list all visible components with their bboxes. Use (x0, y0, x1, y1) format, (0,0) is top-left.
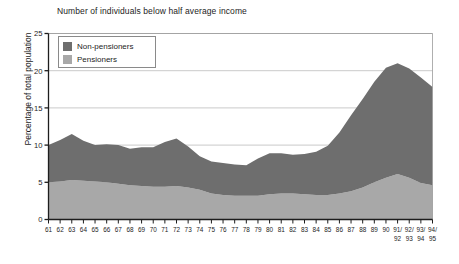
x-axis-tick: 87 (347, 226, 355, 233)
x-axis-tick: 95 (429, 235, 437, 242)
y-axis-tick: 20 (34, 67, 42, 76)
x-axis-tick: 64 (80, 226, 88, 233)
x-axis-tick: 62 (57, 226, 65, 233)
x-axis-tick: 89 (371, 226, 379, 233)
x-axis-tick: 72 (173, 226, 181, 233)
x-axis-tick: 92 (394, 235, 402, 242)
chart-figure: Number of individuals below half average… (0, 0, 459, 264)
x-axis-tick: 88 (359, 226, 367, 233)
legend-label-pensioners: Pensioners (77, 55, 117, 64)
x-axis-tick: 68 (126, 226, 134, 233)
legend-item-pensioners: Pensioners (63, 53, 151, 66)
x-axis-tick: 79 (254, 226, 262, 233)
x-axis-tick: 91/ (393, 226, 402, 233)
legend-item-non-pensioners: Non-pensioners (63, 40, 151, 53)
x-axis-tick: 71 (161, 226, 169, 233)
x-axis-tick: 77 (231, 226, 239, 233)
y-axis-tick: 0 (38, 215, 42, 224)
x-axis-tick: 66 (103, 226, 111, 233)
x-axis-tick: 85 (324, 226, 332, 233)
x-axis-tick: 73 (185, 226, 193, 233)
y-axis-tick: 25 (34, 29, 42, 38)
y-axis-tick: 10 (34, 141, 42, 150)
x-axis-tick: 75 (208, 226, 216, 233)
x-axis-tick: 67 (115, 226, 123, 233)
y-axis-tick: 15 (34, 104, 42, 113)
x-axis-tick: 65 (91, 226, 99, 233)
x-axis-tick: 81 (278, 226, 286, 233)
x-axis-tick: 92/ (405, 226, 414, 233)
y-axis-tick: 5 (38, 178, 42, 187)
x-axis-tick: 86 (336, 226, 344, 233)
x-axis-tick: 93/ (416, 226, 425, 233)
x-axis-tick: 94 (417, 235, 425, 242)
x-axis-tick: 74 (196, 226, 204, 233)
legend-swatch-pensioners (63, 55, 72, 64)
legend-label-non-pensioners: Non-pensioners (77, 42, 133, 51)
chart-legend: Non-pensioners Pensioners (58, 36, 156, 68)
x-axis-tick: 78 (243, 226, 251, 233)
x-axis-tick: 84 (313, 226, 321, 233)
x-axis-tick: 80 (266, 226, 274, 233)
x-axis-tick: 69 (138, 226, 146, 233)
x-axis-tick: 63 (68, 226, 76, 233)
legend-swatch-non-pensioners (63, 42, 72, 51)
x-axis-tick: 83 (301, 226, 309, 233)
x-axis-tick: 94/ (428, 226, 437, 233)
x-axis-tick: 90 (382, 226, 390, 233)
x-axis-tick: 70 (150, 226, 158, 233)
x-axis-tick: 93 (406, 235, 414, 242)
x-axis-tick: 61 (45, 226, 53, 233)
x-axis-tick: 82 (289, 226, 297, 233)
x-axis-tick: 76 (219, 226, 227, 233)
